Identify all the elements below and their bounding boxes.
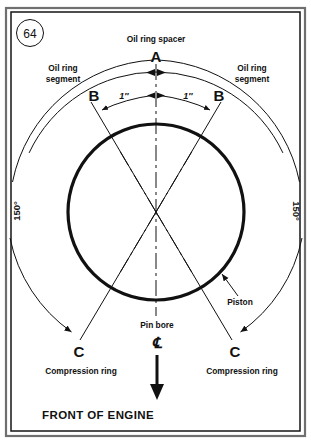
oil-ring-segment-left-line2: segment	[46, 74, 81, 84]
oil-ring-segment-left-line1: Oil ring	[48, 63, 77, 73]
page-title: FRONT OF ENGINE	[42, 409, 154, 421]
label-piston: Piston	[227, 297, 253, 307]
label-compression-ring-right: Compression ring	[206, 366, 278, 376]
label-point-c-left: C	[74, 343, 85, 360]
oil-ring-segment-right-line1: Oil ring	[237, 63, 266, 73]
label-angle-right: 150°	[291, 201, 302, 221]
label-angle-left: 150°	[11, 201, 22, 221]
label-point-a: A	[151, 48, 162, 65]
label-point-b-right: B	[214, 87, 225, 104]
label-point-b-left: B	[89, 87, 100, 104]
label-oil-ring-segment-left: Oil ring segment	[46, 63, 81, 84]
label-dimension-left: 1″	[119, 91, 129, 101]
label-pin-bore: Pin bore	[140, 320, 174, 330]
piston-ring-gap-diagram: 64 A Oil ring spac	[0, 0, 311, 446]
label-point-c-right: C	[230, 343, 241, 360]
centerline-symbol: ℄	[152, 334, 163, 351]
label-compression-ring-left: Compression ring	[45, 366, 117, 376]
figure-container: 64 A Oil ring spac	[0, 0, 311, 446]
label-dimension-right: 1″	[183, 91, 193, 101]
label-oil-ring-segment-right: Oil ring segment	[235, 63, 270, 84]
figure-number-text: 64	[23, 27, 37, 41]
label-oil-ring-spacer: Oil ring spacer	[127, 34, 186, 44]
oil-ring-segment-right-line2: segment	[235, 74, 270, 84]
